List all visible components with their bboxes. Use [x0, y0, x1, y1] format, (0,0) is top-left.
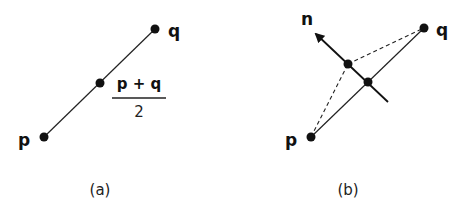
point-on-bisector [344, 60, 353, 69]
dashed-p-to-x [311, 64, 348, 137]
label-denominator: 2 [134, 103, 144, 121]
label-q: q [168, 21, 180, 41]
caption-a: (a) [90, 181, 111, 199]
label-p: p [18, 130, 30, 150]
label-p: p [285, 130, 297, 150]
dashed-x-to-q [348, 28, 424, 64]
label-q: q [436, 20, 448, 40]
label-n: n [301, 9, 313, 29]
caption-b: (b) [337, 181, 358, 199]
point-midpoint [364, 78, 373, 87]
normal-vector-n [316, 34, 388, 102]
diagram-canvas: q p p + q 2 (a) q p n (b) [0, 0, 462, 214]
panel-b: q p n (b) [285, 9, 448, 199]
point-q [420, 24, 429, 33]
point-p [307, 133, 316, 142]
point-midpoint [96, 79, 105, 88]
panel-a: q p p + q 2 (a) [18, 21, 180, 199]
label-numerator: p + q [117, 75, 162, 93]
point-q [151, 25, 160, 34]
point-p [40, 133, 49, 142]
